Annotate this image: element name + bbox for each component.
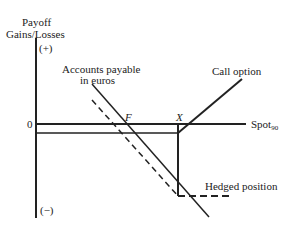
y-axis-title-line1: Payoff: [22, 16, 51, 28]
accounts-payable-line: [92, 84, 209, 217]
hedged-position-label: Hedged position: [205, 180, 277, 192]
hedged-dashed-diagonal: [92, 100, 178, 196]
zero-label: 0: [27, 118, 33, 130]
y-plus-label: (+): [39, 42, 53, 54]
y-minus-label: (−): [40, 204, 54, 216]
forward-label: F: [125, 111, 132, 123]
y-axis-title-line2: Gains/Losses: [6, 28, 65, 40]
call-option-label: Call option: [212, 65, 261, 77]
strike-label: X: [176, 111, 183, 123]
accounts-payable-label-line2: in euros: [80, 74, 115, 86]
x-axis-label: Spot90: [251, 118, 278, 134]
